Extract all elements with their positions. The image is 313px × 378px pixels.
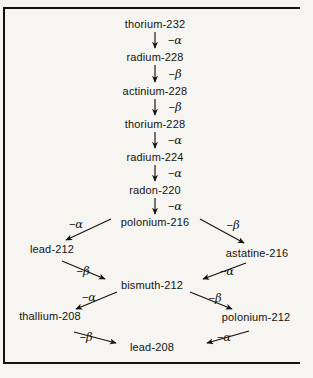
decay-label-th228-ra224: −α — [168, 133, 182, 147]
decay-particle-symbol: β — [215, 291, 222, 305]
nuclide-pb208: lead-208 — [130, 341, 174, 353]
decay-label-bi212-tl208: −α — [82, 290, 96, 304]
decay-label-po216-pb212: −α — [69, 217, 83, 231]
decay-label-pb212-bi212: −β — [76, 264, 89, 278]
decay-label-ra228-ac228: −β — [168, 67, 181, 81]
decay-particle-symbol: β — [233, 218, 240, 232]
nuclide-th232: thorium-232 — [125, 18, 185, 30]
nuclide-bi212: bismuth-212 — [121, 279, 183, 291]
decay-label-po216-at216: −β — [226, 218, 239, 232]
decay-label-tl208-pb208: −β — [79, 330, 92, 344]
decay-particle-symbol: α — [75, 217, 83, 231]
decay-label-at216-bi212: −α — [220, 264, 234, 278]
decay-particle-symbol: α — [174, 133, 182, 147]
nuclide-pb212: lead-212 — [30, 243, 74, 255]
nuclide-ac228: actinium-228 — [123, 85, 188, 97]
decay-particle-symbol: β — [86, 330, 93, 344]
decay-label-ra224-rn220: −α — [168, 166, 182, 180]
nuclide-po212: polonium-212 — [222, 311, 290, 323]
decay-label-po212-pb208: −α — [217, 330, 231, 344]
decay-particle-symbol: α — [226, 264, 234, 278]
decay-particle-symbol: β — [175, 67, 182, 81]
decay-label-th232-ra228: −α — [168, 33, 182, 47]
decay-label-ac228-th228: −β — [168, 100, 181, 114]
nuclide-ra224: radium-224 — [126, 151, 183, 163]
decay-chain-figure: thorium-232radium-228actinium-228thorium… — [0, 0, 313, 378]
decay-particle-symbol: β — [175, 100, 182, 114]
nuclide-th228: thorium-228 — [125, 118, 185, 130]
nuclide-ra228: radium-228 — [126, 51, 183, 63]
decay-particle-symbol: α — [174, 166, 182, 180]
decay-label-rn220-po216: −α — [168, 199, 182, 213]
nuclide-tl208: thallium-208 — [19, 310, 81, 322]
nuclide-at216: astatine-216 — [226, 247, 288, 259]
decay-particle-symbol: α — [174, 199, 182, 213]
decay-particle-symbol: β — [83, 264, 90, 278]
decay-label-bi212-po212: −β — [208, 291, 221, 305]
nuclide-rn220: radon-220 — [129, 184, 181, 196]
decay-particle-symbol: α — [88, 290, 96, 304]
decay-particle-symbol: α — [223, 330, 231, 344]
decay-particle-symbol: α — [174, 33, 182, 47]
nuclide-po216: polonium-216 — [121, 216, 189, 228]
